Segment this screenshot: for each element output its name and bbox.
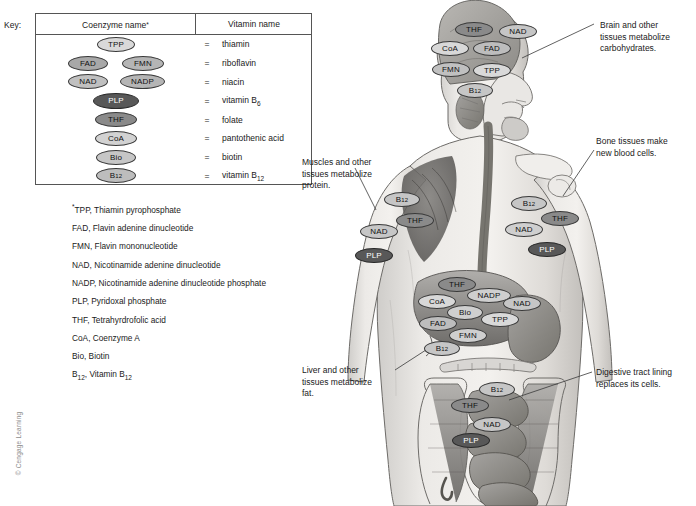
- body-tag-muscle-thf: THF: [396, 213, 434, 228]
- abbreviation-subscript: 12: [78, 374, 85, 381]
- key-row: PLP=vitamin B6: [36, 91, 311, 110]
- coenzyme-abbr: NAD: [79, 77, 97, 86]
- body-tag-bone-plp: PLP: [528, 242, 566, 257]
- key-row: TPP=thiamin: [36, 35, 311, 54]
- key-coenzyme-coa: CoA: [95, 131, 137, 146]
- key-row: THF=folate: [36, 110, 311, 129]
- caption-muscle: Muscles and other tissues metabolize pro…: [302, 157, 398, 192]
- key-coenzyme-nadp: NADP: [120, 74, 165, 89]
- abbreviation-item: NAD, Nicotinamide adenine dinucleotide: [72, 256, 266, 274]
- key-coenzyme-cell: NADNADP: [36, 73, 196, 92]
- coenzyme-abbr: NADP: [477, 291, 500, 300]
- coenzyme-abbr: THF: [466, 25, 482, 34]
- abbreviation-item: *TPP, Thiamin pyrophosphate: [72, 198, 266, 219]
- equals-sign: =: [196, 58, 218, 68]
- key-coenzyme-cell: B12: [36, 167, 196, 186]
- coenzyme-abbr-subscript: 12: [441, 346, 448, 352]
- key-coenzyme-cell: THF: [36, 110, 196, 129]
- coenzyme-abbr-subscript: 12: [115, 173, 122, 179]
- key-vitamin-name: niacin: [222, 77, 244, 87]
- body-tag-muscle-b12: B12: [384, 192, 420, 207]
- coenzyme-abbr: PLP: [539, 245, 555, 254]
- body-tag-liver-fmn: FMN: [449, 328, 487, 343]
- key-vitamin-name: thiamin: [222, 39, 249, 49]
- coenzyme-abbr: CoA: [442, 44, 458, 53]
- key-row: B12=vitamin B12: [36, 167, 311, 186]
- coenzyme-abbr-subscript: 12: [474, 88, 481, 94]
- key-table: Coenzyme name* Vitamin name TPP=thiaminF…: [35, 13, 312, 185]
- key-coenzyme-fmn: FMN: [122, 56, 164, 71]
- equals-sign: =: [196, 115, 218, 125]
- body-tag-liver-thf: THF: [438, 277, 476, 292]
- equals-sign: =: [196, 96, 218, 106]
- coenzyme-abbr: THF: [552, 214, 568, 223]
- coenzyme-abbr: FAD: [80, 59, 96, 68]
- body-tag-muscle-nad: NAD: [360, 224, 398, 239]
- abbreviation-item: FMN, Flavin mononucleotide: [72, 237, 266, 255]
- abbreviation-item: CoA, Coenzyme A: [72, 329, 266, 347]
- coenzyme-abbr: CoA: [108, 134, 124, 143]
- key-coenzyme-thf: THF: [95, 112, 137, 127]
- coenzyme-abbr-subscript: 12: [401, 197, 408, 203]
- key-vitamin-name: biotin: [222, 152, 242, 162]
- equals-sign: =: [196, 77, 218, 87]
- key-coenzyme-fad: FAD: [68, 56, 108, 71]
- key-coenzyme-cell: TPP: [36, 35, 196, 54]
- body-tag-brain-thf: THF: [455, 22, 493, 37]
- coenzyme-abbr: THF: [462, 401, 478, 410]
- body-tag-brain-fmn: FMN: [432, 62, 470, 77]
- coenzyme-abbr: FMN: [134, 59, 152, 68]
- abbreviation-item: THF, Tetrahyrdrofolic acid: [72, 311, 266, 329]
- body-tag-bone-b12: B12: [511, 196, 547, 211]
- equals-sign: =: [196, 171, 218, 181]
- coenzyme-abbr: PLP: [463, 436, 479, 445]
- body-tag-bone-nad: NAD: [505, 222, 543, 237]
- coenzyme-abbr: PLP: [366, 251, 382, 260]
- body-tag-liver-fad: FAD: [419, 316, 457, 331]
- coenzyme-abbr: NAD: [515, 225, 533, 234]
- footnote-marker: *: [72, 203, 75, 210]
- key-coenzyme-cell: CoA: [36, 129, 196, 148]
- coenzyme-abbr: THF: [449, 280, 465, 289]
- key-vitamin-name: pantothenic acid: [222, 133, 284, 143]
- key-label: Key:: [4, 20, 21, 30]
- coenzyme-abbr: THF: [407, 216, 423, 225]
- column-header-coenzyme-text: Coenzyme name: [82, 20, 146, 30]
- body-tag-bone-thf: THF: [541, 211, 579, 226]
- vitamin-subscript: 12: [257, 175, 264, 182]
- key-vitamin-name: folate: [222, 115, 243, 125]
- key-coenzyme-nad: NAD: [68, 74, 108, 89]
- body-tag-brain-b12: B12: [457, 83, 493, 98]
- coenzyme-abbr: NADP: [131, 77, 154, 86]
- abbreviation-item: NADP, Nicotinamide adenine dinucleotide …: [72, 274, 266, 292]
- coenzyme-abbr: THF: [108, 115, 124, 124]
- column-header-vitamin: Vitamin name: [196, 14, 312, 34]
- coenzyme-abbr: TPP: [484, 66, 500, 75]
- body-tag-digestive-plp: PLP: [452, 433, 490, 448]
- caption-bone: Bone tissues make new blood cells.: [596, 136, 696, 159]
- abbreviation-item: PLP, Pyridoxal phosphate: [72, 292, 266, 310]
- equals-sign: =: [196, 133, 218, 143]
- body-tag-digestive-thf: THF: [451, 398, 489, 413]
- coenzyme-abbr: TPP: [108, 40, 124, 49]
- key-row: FADFMN=riboflavin: [36, 54, 311, 73]
- body-tag-muscle-plp: PLP: [355, 248, 393, 263]
- key-coenzyme-bio: Bio: [96, 150, 136, 165]
- caption-brain: Brain and other tissues metabolize carbo…: [600, 20, 696, 55]
- body-tag-liver-b12: B12: [424, 341, 460, 356]
- key-row: NADNADP=niacin: [36, 73, 311, 92]
- key-coenzyme-b12: B12: [96, 168, 136, 183]
- key-row: CoA=pantothenic acid: [36, 129, 311, 148]
- body-tag-brain-fad: FAD: [473, 41, 511, 56]
- body-tag-brain-nad: NAD: [499, 24, 537, 39]
- key-vitamin-name: vitamin B6: [222, 95, 261, 107]
- coenzyme-abbr: NAD: [483, 420, 501, 429]
- copyright-notice: © Cengage Learning: [15, 404, 22, 484]
- body-tag-digestive-b12: B12: [479, 382, 515, 397]
- coenzyme-abbr: NAD: [513, 299, 531, 308]
- body-tag-liver-nad: NAD: [503, 296, 541, 311]
- key-table-header: Coenzyme name* Vitamin name: [36, 14, 311, 35]
- caption-liver: Liver and other tissues metabolize fat.: [302, 365, 398, 400]
- coenzyme-abbr: Bio: [110, 153, 122, 162]
- body-tag-brain-tpp: TPP: [473, 63, 511, 78]
